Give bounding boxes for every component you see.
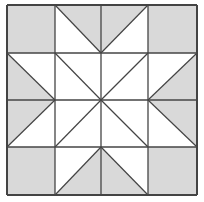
quilt-block-diagram: [0, 0, 204, 202]
shaded-square: [148, 5, 197, 53]
shaded-square: [7, 5, 55, 53]
shaded-square: [7, 147, 55, 195]
shaded-square: [148, 147, 197, 195]
